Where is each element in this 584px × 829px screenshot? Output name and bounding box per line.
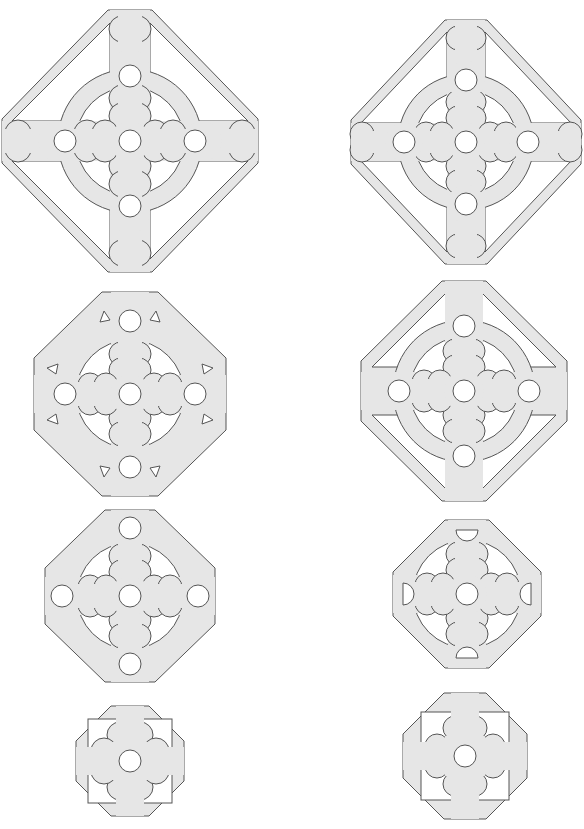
ornament-figure — [0, 0, 584, 829]
ornament-4 — [361, 281, 567, 501]
ornament-5 — [45, 510, 215, 682]
ornament-1 — [2, 10, 258, 272]
hole-center — [119, 130, 141, 152]
ornament-3 — [34, 292, 226, 496]
hole-left — [54, 130, 76, 152]
ornament-2 — [350, 20, 582, 264]
ornament-6 — [393, 520, 541, 668]
ornament-8 — [403, 693, 527, 819]
ornament-7 — [76, 706, 184, 816]
hole-bottom — [119, 195, 141, 217]
hole-right — [184, 130, 206, 152]
hole-top — [119, 65, 141, 87]
